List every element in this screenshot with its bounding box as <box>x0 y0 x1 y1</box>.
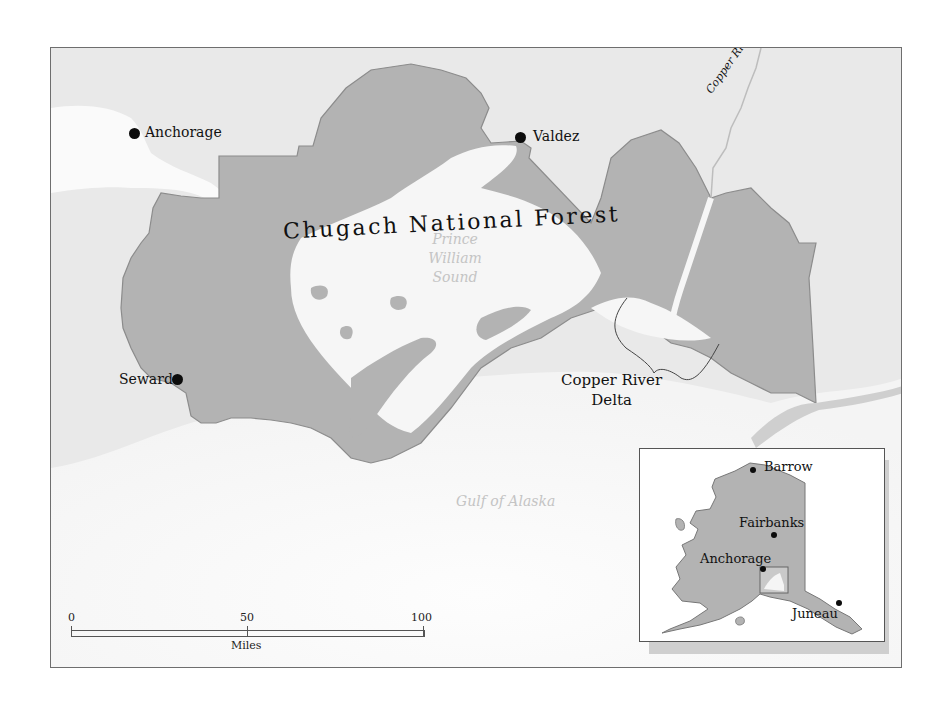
delta-label: Copper River Delta <box>561 370 662 410</box>
fairbanks-label: Fairbanks <box>739 515 804 530</box>
anchorage-dot-icon <box>129 128 140 139</box>
delta-line-2: Delta <box>561 390 662 410</box>
scale-bar-right-tick <box>423 626 424 636</box>
scale-bar-rect <box>71 630 425 637</box>
sound-line-3: Sound <box>415 268 495 287</box>
scale-unit: Miles <box>231 639 261 652</box>
sound-line-1: Prince <box>415 230 495 249</box>
valdez-label: Valdez <box>533 128 579 144</box>
island <box>390 296 407 310</box>
delta-line-1: Copper River <box>561 370 662 390</box>
inset-map: Barrow Fairbanks Anchorage Juneau <box>639 448 885 642</box>
map-frame: Anchorage Valdez Seward Copper River Chu… <box>50 47 902 668</box>
scale-bar: 0 50 100 Miles <box>71 608 431 648</box>
scale-bar-left-tick <box>71 626 72 636</box>
barrow-label: Barrow <box>764 459 813 474</box>
prince-william-sound-label: Prince William Sound <box>415 230 495 287</box>
island <box>676 519 685 531</box>
juneau-label: Juneau <box>792 606 838 621</box>
valdez-dot-icon <box>515 132 526 143</box>
scale-tick-50: 50 <box>240 611 254 624</box>
scale-tick-0: 0 <box>68 611 75 624</box>
island <box>736 617 745 625</box>
seward-label: Seward <box>119 371 173 387</box>
seward-dot-icon <box>172 374 183 385</box>
scale-bar-mid-tick <box>247 626 248 636</box>
fairbanks-dot-icon <box>771 532 777 538</box>
anchorage-inset-label: Anchorage <box>700 551 771 566</box>
barrow-dot-icon <box>750 467 756 473</box>
anchorage-inset-dot-icon <box>760 566 766 572</box>
sound-line-2: William <box>415 249 495 268</box>
scale-tick-100: 100 <box>411 611 432 624</box>
gulf-of-alaska-label: Gulf of Alaska <box>456 492 555 511</box>
anchorage-label: Anchorage <box>145 124 222 140</box>
alaska-outline <box>640 449 884 641</box>
